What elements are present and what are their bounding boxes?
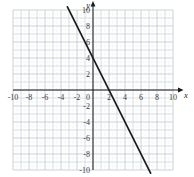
graph-figure: -10-8-6-4-2246810108642-2-4-6-8-10 y x 0 (0, 0, 194, 177)
x-tick-label: -6 (42, 93, 49, 102)
y-tick-label: 4 (86, 54, 90, 63)
x-axis-arrow-icon (178, 88, 184, 93)
x-tick-label: -10 (8, 93, 19, 102)
y-tick-label: -8 (83, 150, 90, 159)
y-tick-label: 8 (86, 22, 90, 31)
x-tick-label: -4 (58, 93, 65, 102)
x-tick-label: -2 (74, 93, 81, 102)
axes (13, 1, 184, 170)
y-tick-label: -6 (83, 134, 90, 143)
origin-label: 0 (86, 93, 90, 102)
y-tick-label: -2 (83, 102, 90, 111)
y-tick-label: 2 (86, 70, 90, 79)
y-axis-arrow-icon (91, 1, 96, 7)
x-tick-label: 6 (139, 93, 143, 102)
x-axis-label: x (183, 90, 188, 100)
coordinate-plane: -10-8-6-4-2246810108642-2-4-6-8-10 y x 0 (0, 0, 194, 177)
y-tick-label: -4 (83, 118, 90, 127)
x-tick-label: 4 (123, 93, 127, 102)
y-axis-label: y (85, 0, 90, 10)
x-tick-label: 10 (169, 93, 177, 102)
x-tick-label: -8 (26, 93, 33, 102)
x-tick-label: 8 (155, 93, 159, 102)
axis-letters: y x 0 (85, 0, 188, 102)
y-tick-label: -10 (79, 166, 90, 175)
